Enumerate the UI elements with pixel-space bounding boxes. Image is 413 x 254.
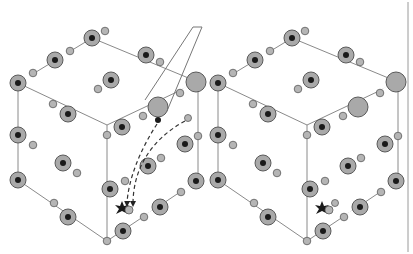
lattice-figure: [0, 0, 413, 254]
interstitial-atom: [155, 117, 161, 123]
figure-canvas: [0, 0, 413, 254]
right-cube: [210, 27, 406, 245]
defect-hydrogen: [125, 206, 133, 214]
defect-hydrogen-2: [332, 200, 339, 207]
left-cube: [10, 27, 206, 245]
defect-hydrogen: [325, 206, 333, 214]
interstitial-hydrogen: [185, 115, 192, 122]
